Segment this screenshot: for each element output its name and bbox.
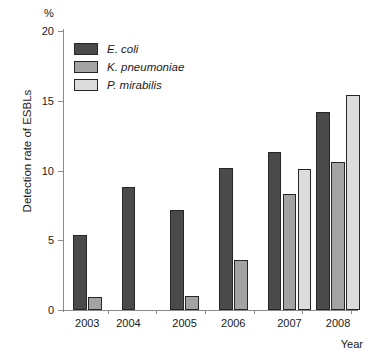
x-tick-mark [254,310,255,314]
x-tick-mark [205,310,206,314]
x-tick-mark [156,310,157,314]
x-tick-mark [302,310,303,314]
legend-label: E. coli [107,43,138,55]
bar-2008-e-coli [316,112,330,310]
bar-2007-p-mirabilis [298,169,312,310]
bar-2007-k-pneumoniae [283,194,297,310]
x-tick-label-2006: 2006 [221,317,245,329]
bar-2005-k-pneumoniae [185,296,199,310]
y-tick-label: 5 [48,234,54,246]
x-axis-title: Year [341,338,363,350]
y-tick-label: 15 [42,95,54,107]
y-tick-label: 20 [42,25,54,37]
x-tick-label-2008: 2008 [326,317,350,329]
x-tick-mark [351,310,352,314]
legend-swatch-icon [74,43,98,55]
bar-2006-k-pneumoniae [234,260,248,310]
legend-label: P. mirabilis [107,79,162,91]
y-tick-label: 10 [42,165,54,177]
bar-2008-p-mirabilis [346,95,360,310]
bar-2003-k-pneumoniae [88,297,102,310]
x-tick-label-2003: 2003 [75,317,99,329]
legend-swatch-icon [74,79,98,91]
x-tick-label-2007: 2007 [277,317,301,329]
bar-2005-e-coli [170,210,184,310]
x-tick-mark [108,310,109,314]
y-tick-mark [58,101,63,102]
y-tick-mark [58,240,63,241]
y-tick-mark [58,310,63,311]
bar-2007-e-coli [268,152,282,310]
bar-2008-k-pneumoniae [331,162,345,310]
y-tick-mark [58,31,63,32]
bar-2004-e-coli [122,187,136,310]
y-axis-title: Detection rate of ESBLs [21,66,33,236]
bar-2006-e-coli [219,168,233,310]
y-tick-label: 0 [48,304,54,316]
legend-label: K. pneumoniae [107,61,184,73]
legend-swatch-icon [74,61,98,73]
x-tick-label-2004: 2004 [116,317,140,329]
x-tick-label-2005: 2005 [172,317,196,329]
chart-legend: E. coliK. pneumoniaeP. mirabilis [74,40,184,94]
legend-item-p-mirabilis: P. mirabilis [74,76,184,94]
y-axis-unit-label: % [44,7,54,19]
bar-chart: % Detection rate of ESBLs 05101520200320… [0,0,368,356]
bar-2003-e-coli [73,235,87,310]
legend-item-k-pneumoniae: K. pneumoniae [74,58,184,76]
legend-item-e-coli: E. coli [74,40,184,58]
y-tick-mark [58,171,63,172]
